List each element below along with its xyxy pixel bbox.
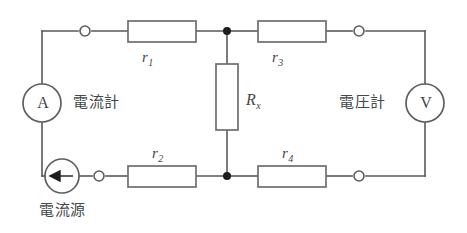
ammeter-glyph: A <box>35 95 51 111</box>
r1-symbol: r <box>142 49 148 65</box>
junction-node-top <box>223 27 231 35</box>
terminal-bottom-left <box>94 171 104 181</box>
r3-symbol: r <box>272 49 278 65</box>
terminal-top-right <box>354 26 364 36</box>
ammeter-label: 電流計 <box>73 95 120 110</box>
junction-node-bottom <box>223 172 231 180</box>
r4-symbol: r <box>282 145 288 161</box>
r2-subscript: 2 <box>158 153 163 164</box>
resistor-box-r2 <box>128 166 196 187</box>
voltmeter-glyph: V <box>418 95 434 111</box>
resistor-box-rx <box>216 64 238 130</box>
resistor-label-r1: r1 <box>142 50 153 68</box>
resistor-box-r3 <box>258 21 326 42</box>
resistor-label-r3: r3 <box>272 50 283 68</box>
r1-subscript: 1 <box>148 57 153 68</box>
terminal-bottom-right <box>354 171 364 181</box>
current-source-label: 電流源 <box>39 203 86 218</box>
rx-subscript: x <box>256 100 260 111</box>
circuit-diagram: r1 r3 r2 r4 Rx A V 電流計 電圧計 電流源 <box>0 0 467 233</box>
resistor-label-r2: r2 <box>152 146 163 164</box>
resistor-box-r4 <box>258 166 326 187</box>
circuit-schematic-canvas <box>0 0 467 233</box>
r2-symbol: r <box>152 145 158 161</box>
resistor-label-rx: Rx <box>246 92 261 111</box>
resistor-label-r4: r4 <box>282 146 293 164</box>
voltmeter-label: 電圧計 <box>339 95 386 110</box>
terminal-top-left <box>80 26 90 36</box>
r4-subscript: 4 <box>288 153 293 164</box>
resistor-box-r1 <box>128 21 196 42</box>
rx-symbol: R <box>246 91 256 108</box>
r3-subscript: 3 <box>278 57 283 68</box>
